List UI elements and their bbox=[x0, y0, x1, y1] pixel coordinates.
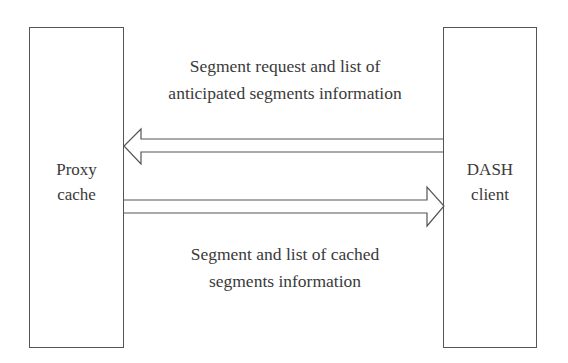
diagram-canvas: Proxy cache DASH client Segment request … bbox=[0, 0, 568, 363]
request-edge-label-line2: anticipated segments information bbox=[140, 80, 430, 107]
response-edge-label: Segment and list of cached segments info… bbox=[150, 241, 420, 295]
response-arrow-right bbox=[124, 187, 444, 226]
response-edge-label-line1: Segment and list of cached bbox=[150, 241, 420, 268]
request-edge-label: Segment request and list of anticipated … bbox=[140, 53, 430, 107]
request-arrow-left bbox=[124, 129, 443, 164]
request-edge-label-line1: Segment request and list of bbox=[140, 53, 430, 80]
response-edge-label-line2: segments information bbox=[150, 268, 420, 295]
